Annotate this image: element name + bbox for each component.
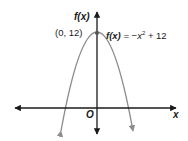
equation-label: f(x) = −x2 + 12 xyxy=(106,30,167,41)
vertex-point xyxy=(95,31,99,35)
parabola-graph: f(x) x O (0, 12) f(x) = −x2 + 12 xyxy=(0,0,188,141)
y-axis-label: f(x) xyxy=(74,11,90,22)
equation-rest: + 12 xyxy=(145,30,166,41)
x-axis-label: x xyxy=(172,109,179,120)
vertex-label: (0, 12) xyxy=(55,27,82,38)
equation-eq: = −x xyxy=(121,30,143,41)
origin-label: O xyxy=(86,109,94,120)
equation-lhs: f(x) xyxy=(106,30,121,41)
